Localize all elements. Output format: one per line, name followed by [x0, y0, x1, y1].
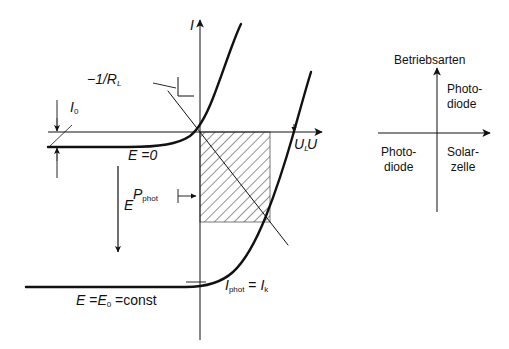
quadrant-lower-left-line1: Photo-	[381, 145, 416, 160]
e-const-e1: E	[76, 292, 85, 308]
figure-canvas: I U −1/RL I0 E =0 E E =E0 =const Pphot U…	[0, 0, 509, 349]
p-phot-label: Pphot	[133, 187, 158, 203]
load-line-leader	[153, 83, 176, 88]
quadrant-lower-right-line1: Solar-	[447, 145, 479, 160]
quadrant-upper-right-line1: Photo-	[447, 82, 482, 97]
e-zero-label: E =0	[128, 148, 157, 162]
i0-dimension-arrows	[50, 100, 72, 178]
p-phot-sub: phot	[142, 194, 158, 203]
load-line-slope-triangle	[178, 77, 194, 96]
ul-label: UL	[294, 137, 309, 153]
iphot-sub: phot	[229, 285, 245, 294]
betriebsarten-title: Betriebsarten	[394, 54, 465, 66]
curve-dark-characteristic	[48, 24, 241, 147]
p-phot-leader	[178, 189, 196, 203]
ik-sub: k	[264, 285, 268, 294]
e-field-label: E	[124, 198, 133, 212]
i0-label: I0	[70, 100, 78, 116]
p-phot-base: P	[133, 186, 142, 202]
quadrant-lower-left: Photo- diode	[381, 145, 416, 175]
ul-base: U	[294, 136, 304, 152]
load-line-slope-sub: L	[117, 79, 121, 88]
quadrant-upper-right-line2: diode	[447, 97, 482, 112]
quadrant-upper-right: Photo- diode	[447, 82, 482, 112]
i0-sub: 0	[74, 107, 78, 116]
ul-sub: L	[304, 144, 308, 153]
quadrant-lower-right-line2: zelle	[447, 160, 479, 175]
iphot-label: Iphot = Ik	[225, 278, 268, 294]
e-const-e2: E	[97, 292, 106, 308]
e-const-label: E =E0 =const	[76, 293, 157, 309]
load-line-slope-label: −1/RL	[87, 72, 121, 88]
quadrant-lower-right: Solar- zelle	[447, 145, 479, 175]
axis-label-i: I	[190, 18, 194, 32]
quadrant-lower-left-line2: diode	[381, 160, 416, 175]
load-line-slope-base: −1/R	[87, 71, 117, 87]
